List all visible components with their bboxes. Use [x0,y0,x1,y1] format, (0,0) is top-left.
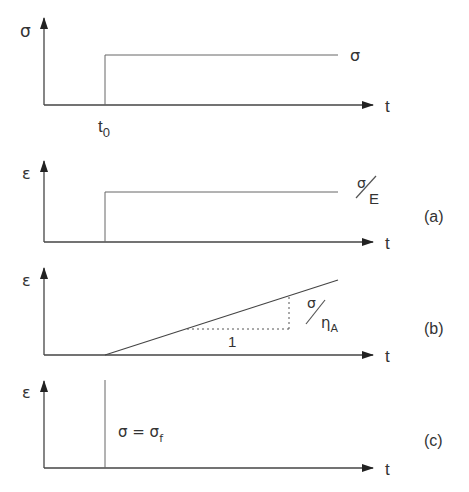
b-viscous-ramp [105,280,338,355]
c-y-label: ε [22,383,31,402]
b-panel-label: (b) [424,320,444,337]
creep-diagram: σ σ t t0 ε σ E (a) t 1 ε σ ηA (b) t ε σ … [0,0,469,492]
t0-label: t0 [98,117,110,140]
b-slope-run-label: 1 [228,333,236,350]
b-y-label: ε [22,271,31,290]
panel-c: ε σ = σf (c) t [22,380,443,479]
panel-b: 1 ε σ ηA (b) t [22,268,444,366]
stress-step-curve [105,55,338,105]
b-label-den: ηA [321,314,339,335]
c-panel-label: (c) [424,432,443,449]
b-label-num: σ [307,295,316,311]
panel-a: ε σ E (a) t [22,161,444,253]
stress-panel: σ σ t t0 [20,18,390,140]
a-y-label: ε [22,164,31,183]
b-x-label: t [385,347,390,366]
c-x-label: t [385,460,390,479]
stress-x-label: t [385,97,390,116]
c-annotation: σ = σf [118,423,164,445]
a-panel-label: (a) [424,208,444,225]
a-label-den: E [369,190,379,207]
stress-curve-label: σ [350,46,360,65]
stress-y-label: σ [20,21,31,41]
a-x-label: t [385,234,390,253]
a-elastic-curve [105,192,338,242]
